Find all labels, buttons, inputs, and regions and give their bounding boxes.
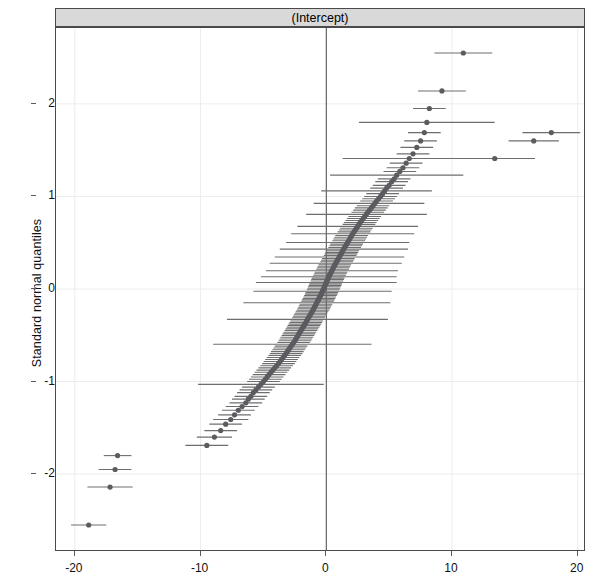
- x-tick-label: 0: [305, 561, 345, 575]
- qq-plot-figure: Standard normal quantiles -2-1012 (Inter…: [0, 0, 597, 586]
- plot-canvas: [56, 28, 584, 550]
- x-tick-mark: [74, 551, 75, 556]
- y-tick-label: 0: [37, 281, 55, 295]
- y-tick-mark: [31, 195, 36, 196]
- y-axis-ticks: -2-1012: [31, 0, 55, 586]
- y-tick-label: 2: [37, 96, 55, 110]
- x-tick-mark: [325, 551, 326, 556]
- x-axis-ticks: -20-1001020: [0, 551, 597, 586]
- y-tick-label: -1: [37, 374, 55, 388]
- y-tick-mark: [31, 288, 36, 289]
- y-tick-label: -2: [37, 466, 55, 480]
- strip-label: (Intercept): [292, 11, 349, 25]
- x-tick-mark: [200, 551, 201, 556]
- x-tick-label: 10: [431, 561, 471, 575]
- x-tick-mark: [451, 551, 452, 556]
- y-tick-mark: [31, 473, 36, 474]
- x-tick-label: -10: [180, 561, 220, 575]
- x-tick-label: 20: [557, 561, 597, 575]
- x-tick-label: -20: [54, 561, 94, 575]
- x-tick-mark: [577, 551, 578, 556]
- y-tick-label: 1: [37, 188, 55, 202]
- plot-panel: [55, 27, 585, 551]
- panel-strip-title: (Intercept): [55, 8, 585, 27]
- gridlines: [56, 28, 584, 550]
- y-tick-mark: [31, 103, 36, 104]
- y-tick-mark: [31, 381, 36, 382]
